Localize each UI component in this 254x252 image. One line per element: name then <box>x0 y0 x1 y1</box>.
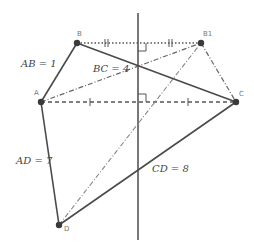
segment-AB <box>41 43 77 102</box>
point-B1[interactable] <box>198 40 204 46</box>
length-label-AB: AB = 1 <box>20 58 57 69</box>
right-angle-mark-top <box>138 43 146 51</box>
segment-DB1 <box>59 43 201 225</box>
label-B1: B1 <box>203 30 212 38</box>
point-C[interactable] <box>233 99 239 105</box>
point-B[interactable] <box>74 40 80 46</box>
length-label-AD: AD = 7 <box>15 155 53 166</box>
segment-B1C <box>201 43 236 102</box>
length-label-BC: BC = 4 <box>92 63 129 74</box>
label-B: B <box>77 30 82 38</box>
label-C: C <box>239 90 244 98</box>
right-angle-mark-middle <box>138 94 146 102</box>
label-A: A <box>34 89 39 97</box>
geometry-diagram: A B B1 C D AB = 1 BC = 4 AD = 7 CD = 8 <box>0 0 254 252</box>
segment-CD <box>59 102 236 225</box>
point-A[interactable] <box>38 99 44 105</box>
length-label-CD: CD = 8 <box>152 163 189 174</box>
label-D: D <box>64 225 69 233</box>
point-D[interactable] <box>56 222 62 228</box>
